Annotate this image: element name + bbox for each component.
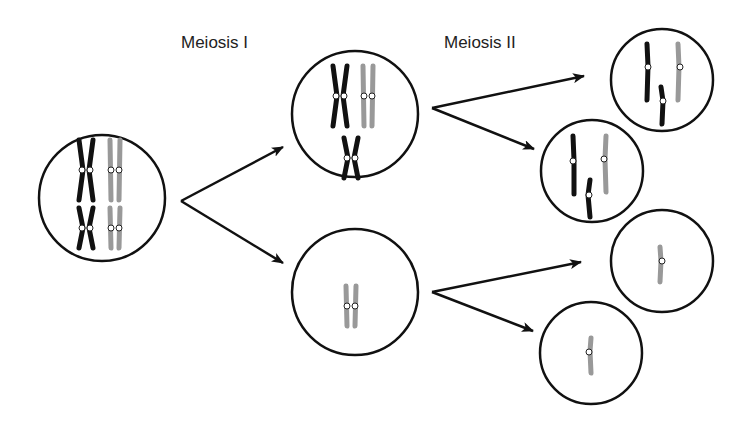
parent-cell bbox=[39, 135, 165, 261]
gamete-cell-1 bbox=[611, 29, 713, 131]
gamete-cell-2 bbox=[541, 120, 643, 222]
meiosis-2-arrows bbox=[432, 76, 584, 331]
gamete-cell-4 bbox=[540, 302, 642, 404]
meiosis-1-top-cell bbox=[292, 51, 418, 178]
meiosis-1-bottom-cell bbox=[292, 229, 418, 355]
meiosis-diagram bbox=[0, 0, 739, 434]
meiosis-1-arrows bbox=[181, 147, 283, 263]
gamete-cell-3 bbox=[611, 210, 713, 312]
